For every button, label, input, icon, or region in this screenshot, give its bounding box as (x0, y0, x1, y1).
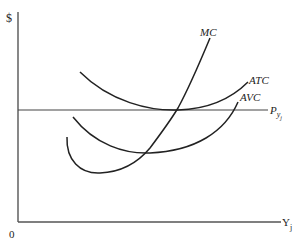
cost-curves-diagram: $ 0 Yj MC ATC AVC Pyj (0, 0, 302, 246)
atc-label: ATC (248, 74, 269, 86)
y-axis-label: $ (6, 11, 12, 25)
avc-label: AVC (239, 91, 261, 103)
mc-label: MC (199, 26, 217, 38)
atc-curve (80, 72, 248, 110)
x-axis-label: Yj (282, 216, 292, 232)
price-label: Pyj (269, 104, 282, 121)
origin-label: 0 (9, 228, 15, 240)
